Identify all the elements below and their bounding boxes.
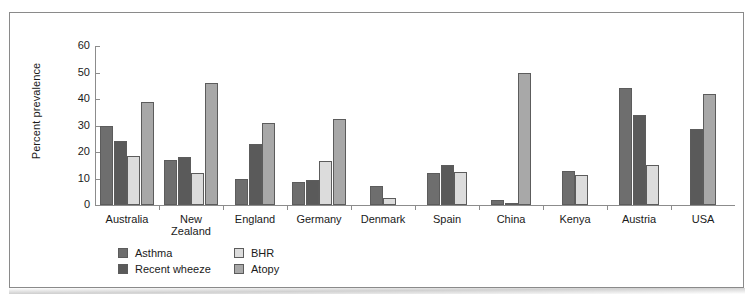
bar	[114, 141, 127, 205]
bar	[306, 180, 319, 205]
bar	[205, 83, 218, 205]
bar	[575, 175, 588, 205]
legend-label-asthma: Asthma	[135, 248, 172, 259]
x-axis-tick	[287, 205, 288, 210]
bar	[100, 126, 113, 206]
bar	[690, 129, 703, 205]
x-axis-tick-label: Germany	[287, 213, 351, 225]
bar	[333, 119, 346, 205]
legend-row: Recent wheeze Atopy	[118, 261, 378, 277]
scan-edge-artifact	[9, 288, 745, 294]
x-axis-tick	[607, 205, 608, 210]
legend-label-bhr: BHR	[251, 248, 274, 259]
x-axis-tick-label: Australia	[95, 213, 159, 225]
bar	[703, 94, 716, 205]
x-axis-tick-label: New Zealand	[159, 213, 223, 237]
bar	[262, 123, 275, 205]
x-axis-tick-label: Spain	[415, 213, 479, 225]
y-axis-title: Percent prevalence	[30, 41, 42, 181]
legend-swatch-atopy	[234, 264, 244, 274]
bar-series-layer	[95, 46, 735, 205]
y-axis-tick-label: 60	[62, 40, 90, 51]
bar	[319, 161, 332, 205]
x-axis-tick	[351, 205, 352, 210]
bar	[454, 172, 467, 205]
legend-item-atopy: Atopy	[234, 264, 350, 275]
x-axis-tick-label: USA	[671, 213, 735, 225]
x-axis-tick	[223, 205, 224, 210]
x-axis-tick	[479, 205, 480, 210]
chart-legend: Asthma BHR Recent wheeze Atopy	[118, 245, 378, 277]
bar	[164, 160, 177, 205]
bar	[235, 179, 248, 206]
legend-item-bhr: BHR	[234, 248, 350, 259]
bar	[518, 73, 531, 206]
legend-label-atopy: Atopy	[251, 264, 279, 275]
bar	[292, 182, 305, 205]
bar	[178, 157, 191, 205]
legend-swatch-asthma	[118, 248, 128, 258]
x-axis-tick	[671, 205, 672, 210]
bar	[562, 171, 575, 205]
bar	[127, 156, 140, 205]
x-axis-tick	[159, 205, 160, 210]
bar	[646, 165, 659, 205]
y-axis-tick	[95, 205, 100, 206]
bar	[370, 186, 383, 205]
bar	[141, 102, 154, 205]
y-axis-tick-label: 40	[62, 93, 90, 104]
y-axis-tick-label: 10	[62, 173, 90, 184]
bar	[191, 173, 204, 205]
bar	[491, 200, 504, 205]
bar	[441, 165, 454, 205]
x-axis-tick	[415, 205, 416, 210]
legend-swatch-recent-wheeze	[118, 264, 128, 274]
bar	[249, 144, 262, 205]
y-axis-tick-label: 20	[62, 146, 90, 157]
x-axis-tick-label: Kenya	[543, 213, 607, 225]
legend-item-recent-wheeze: Recent wheeze	[118, 264, 234, 275]
bar	[619, 88, 632, 205]
x-axis-tick-label: England	[223, 213, 287, 225]
bar	[505, 203, 518, 205]
bar	[383, 198, 396, 205]
figure-frame: Percent prevalence 0102030405060 Austral…	[9, 12, 744, 288]
y-axis-tick-label: 50	[62, 67, 90, 78]
x-axis-tick-label: Denmark	[351, 213, 415, 225]
x-axis-tick-label: Austria	[607, 213, 671, 225]
bar	[633, 115, 646, 205]
y-axis-tick-label: 30	[62, 120, 90, 131]
x-axis-tick	[543, 205, 544, 210]
x-axis-tick-label: China	[479, 213, 543, 225]
legend-item-asthma: Asthma	[118, 248, 234, 259]
legend-label-recent-wheeze: Recent wheeze	[135, 264, 211, 275]
legend-swatch-bhr	[234, 248, 244, 258]
chart-plot-area: Percent prevalence 0102030405060 Austral…	[10, 13, 745, 289]
y-axis-tick-label: 0	[62, 199, 90, 210]
bar	[427, 173, 440, 205]
legend-row: Asthma BHR	[118, 245, 378, 261]
